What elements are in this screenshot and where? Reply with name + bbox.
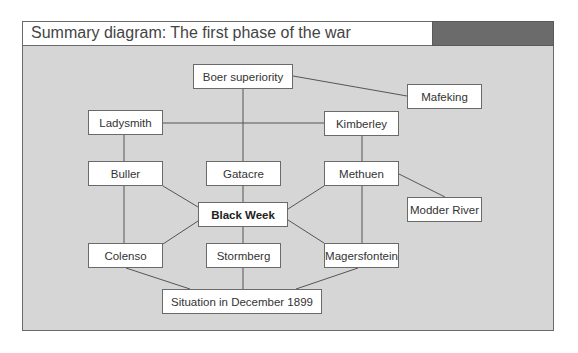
- edge-methuen-modder: [399, 174, 445, 197]
- node-buller: Buller: [88, 161, 163, 186]
- node-label: Magersfontein: [325, 250, 398, 262]
- edge-colenso-situation: [126, 268, 190, 289]
- edge-buller-blackweek: [163, 186, 198, 207]
- edge-blackweek-colenso: [163, 221, 198, 244]
- node-label: Gatacre: [223, 168, 264, 180]
- node-label: Methuen: [339, 168, 384, 180]
- node-ladysmith: Ladysmith: [88, 110, 163, 135]
- node-label: Colenso: [104, 250, 146, 262]
- node-stormberg: Stormberg: [206, 243, 281, 268]
- edge-boer-mafeking: [293, 76, 407, 96]
- node-label: Boer superiority: [203, 71, 284, 83]
- node-modder-river: Modder River: [407, 197, 482, 222]
- node-label: Kimberley: [336, 118, 387, 130]
- edge-blackweek-magersfontein: [288, 220, 324, 243]
- edge-methuen-blackweek: [288, 186, 324, 209]
- node-kimberley: Kimberley: [324, 111, 399, 136]
- node-label: Stormberg: [217, 250, 271, 262]
- node-label: Buller: [111, 168, 140, 180]
- node-boer-superiority: Boer superiority: [193, 64, 293, 89]
- node-colenso: Colenso: [88, 243, 163, 268]
- node-situation-december-1899: Situation in December 1899: [162, 289, 322, 314]
- node-black-week: Black Week: [198, 202, 288, 227]
- node-gatacre: Gatacre: [206, 161, 281, 186]
- edge-magersfontein-situation: [296, 268, 358, 289]
- node-label: Situation in December 1899: [171, 296, 313, 308]
- node-label: Black Week: [211, 209, 275, 221]
- node-magersfontein: Magersfontein: [324, 243, 399, 268]
- node-label: Modder River: [410, 204, 479, 216]
- node-label: Mafeking: [421, 91, 468, 103]
- node-label: Ladysmith: [99, 117, 151, 129]
- node-methuen: Methuen: [324, 161, 399, 186]
- node-mafeking: Mafeking: [407, 84, 482, 109]
